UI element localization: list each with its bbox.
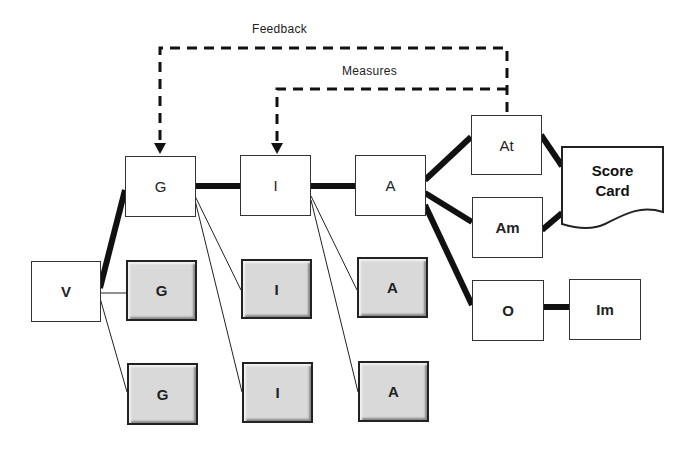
v-to-g-line [100,190,125,288]
node-am: Am [472,197,543,258]
am-to-scorecard-line [542,213,562,230]
measures-label: Measures [342,64,397,78]
i-to-a-mid-line [311,196,357,290]
measures-arrowhead-icon [271,143,283,154]
feedback-arrow [160,48,507,145]
node-v: V [31,261,101,322]
node-i-bot: I [242,362,313,423]
node-i-top: I [240,155,311,216]
a-to-at-line [425,137,471,180]
i-to-a-bot-line [311,200,358,392]
node-at: At [471,115,542,175]
g-to-i-mid-line [195,196,241,290]
node-a-top: A [355,155,426,216]
score-card-line2: Card [562,181,663,201]
node-g-top: G [125,156,196,217]
node-a-mid: A [357,257,428,318]
node-o: O [472,280,544,341]
at-to-scorecard-line [541,135,562,166]
g-to-i-bot-line [195,200,242,392]
node-g-bot: G [127,363,198,425]
node-g-mid: G [126,260,197,321]
feedback-arrowhead-icon [154,143,166,154]
score-card-line1: Score [562,161,663,181]
score-card-label: Score Card [562,161,663,201]
node-a-bot: A [358,361,429,422]
node-im: Im [569,279,641,340]
feedback-label: Feedback [252,22,307,36]
node-i-mid: I [241,259,312,319]
v-to-g-bot-line [100,298,127,392]
